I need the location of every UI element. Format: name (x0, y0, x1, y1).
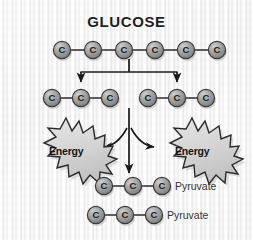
glycolysis-diagram: C C C C C C C C C C C C C C C C C C GLUC… (0, 0, 253, 240)
carbon-label: C (159, 180, 166, 191)
carbon-label: C (214, 44, 221, 55)
carbon-label: C (78, 92, 85, 103)
carbon-label: C (49, 92, 56, 103)
energy-label-right: Energy (175, 145, 209, 157)
carbon-label: C (174, 92, 181, 103)
carbon-label: C (130, 180, 137, 191)
page-title: GLUCOSE (0, 13, 253, 30)
energy-arrow-left (104, 128, 127, 147)
carbon-label: C (107, 92, 114, 103)
pyruvate-lower-label: Pyruvate (167, 209, 208, 221)
carbon-label: C (121, 44, 128, 55)
carbon-label: C (122, 209, 129, 220)
carbon-label: C (93, 209, 100, 220)
carbon-label: C (203, 92, 210, 103)
carbon-label: C (59, 44, 66, 55)
carbon-label: C (90, 44, 97, 55)
carbon-label: C (183, 44, 190, 55)
carbon-label: C (101, 180, 108, 191)
glucose-chain-atoms (53, 41, 227, 61)
carbon-label: C (151, 209, 158, 220)
energy-arrow-right (131, 128, 154, 147)
carbon-label: C (152, 44, 159, 55)
split-bracket-arrow (81, 59, 178, 82)
carbon-label: C (145, 92, 152, 103)
diagram-vector-layer: C C C C C C C C C C C C C C C C C C (0, 0, 253, 240)
pyruvate-upper-label: Pyruvate (175, 180, 216, 192)
energy-label-left: Energy (49, 145, 83, 157)
